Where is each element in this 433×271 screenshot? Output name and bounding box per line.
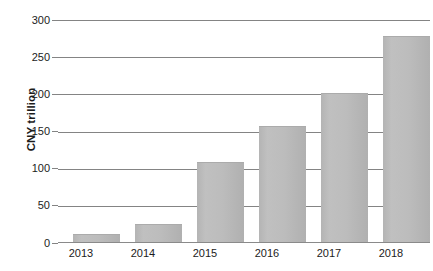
gridline-150 (58, 132, 430, 133)
x-axis-tick-label-2015: 2015 (174, 248, 236, 259)
bar-2013[interactable] (73, 234, 120, 242)
gridline-200 (58, 94, 430, 95)
bar-2017[interactable] (321, 93, 368, 242)
gridline-50 (58, 206, 430, 207)
bar-2014[interactable] (135, 224, 182, 242)
y-axis-tick-label-100: 100 (16, 163, 50, 174)
gridline-300 (58, 20, 430, 21)
x-axis-tick-label-2018: 2018 (360, 248, 422, 259)
bar-2016[interactable] (259, 126, 306, 242)
bar-chart: CNY trillion 300 250 200 150 100 50 0 20… (0, 0, 433, 271)
bar-2018[interactable] (383, 36, 430, 242)
y-axis-tick-label-150: 150 (16, 126, 50, 137)
y-axis-tick-label-300: 300 (16, 15, 50, 26)
x-axis-tick-label-2016: 2016 (236, 248, 298, 259)
x-axis-tick-label-2014: 2014 (112, 248, 174, 259)
y-axis-tick-label-0: 0 (16, 238, 50, 249)
gridline-100 (58, 169, 430, 170)
y-axis-tick-label-200: 200 (16, 89, 50, 100)
y-axis-tick-label-50: 50 (16, 200, 50, 211)
bar-2015[interactable] (197, 162, 244, 242)
x-axis-baseline (58, 242, 430, 243)
y-axis-tick-mark-0 (52, 243, 58, 244)
x-axis-tick-label-2013: 2013 (50, 248, 112, 259)
x-axis-tick-label-2017: 2017 (298, 248, 360, 259)
plot-area (58, 20, 430, 243)
y-axis-tick-label-250: 250 (16, 52, 50, 63)
gridline-250 (58, 57, 430, 58)
